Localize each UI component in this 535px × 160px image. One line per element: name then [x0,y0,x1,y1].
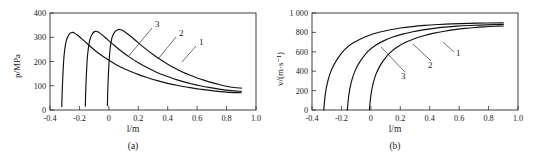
curve-tag-2: 2 [179,28,184,38]
leader-line-1 [443,42,454,52]
ytick-label: 200 [296,87,308,96]
xtick-label: 0.6 [454,114,464,123]
plot-a-xticklabels: -0.4 -0.2 0 0.2 0.4 0.6 0.8 1.0 [44,114,262,123]
plot-b-yticks [312,13,316,110]
plot-a-svg: 0 100 200 300 400 -0.4 -0.2 0 [0,0,268,160]
curve-tag-1: 1 [199,37,204,47]
plot-b-frame [312,13,518,110]
chart-panel-a: 0 100 200 300 400 -0.4 -0.2 0 [0,0,268,160]
xtick-label: 0.4 [425,114,435,123]
curve-series-1 [107,29,241,105]
xtick-label: -0.4 [44,114,57,123]
plot-b-xticklabels: -0.4 -0.2 0 0.2 0.4 0.6 0.8 1.0 [306,114,524,123]
plot-b-curve-tags: 1 2 3 [381,42,461,81]
x-axis-label-a-text: l/m [127,124,140,134]
plot-b-curves [324,23,504,110]
x-axis-label-a: l/m [103,124,163,134]
plot-b-yticklabels: 0 200 400 600 800 1 000 [290,9,308,115]
plot-a-yticklabels: 0 100 200 300 400 [34,9,46,115]
y-axis-label-b-text: v/(m·s⁻¹) [275,52,285,86]
leader-line-2 [158,37,176,59]
xtick-label: -0.2 [73,114,86,123]
ytick-label: 1 000 [290,9,308,18]
curve-series-3 [324,23,504,110]
curve-tag-1: 1 [456,48,461,58]
xtick-label: 1.0 [513,114,523,123]
curve-tag-3: 3 [155,19,160,29]
plot-a-yticks [50,13,54,110]
ytick-label: 400 [34,9,46,18]
curve-tag-3: 3 [401,71,406,81]
plot-a-frame [50,13,256,110]
x-axis-label-b-text: l/m [389,124,402,134]
plot-a-curves [62,29,242,106]
curve-tag-2: 2 [428,60,433,70]
xtick-label: 0.6 [192,114,202,123]
xtick-label: 0.2 [395,114,405,123]
ytick-label: 300 [34,33,46,42]
leader-line-2 [413,44,431,61]
leader-line-1 [182,46,196,62]
ytick-label: 100 [34,82,46,91]
y-axis-label-b: v/(m·s⁻¹) [275,24,285,86]
xtick-label: -0.4 [306,114,319,123]
plot-a-curve-tags: 1 2 3 [128,19,204,62]
xtick-label: 0 [369,114,373,123]
x-axis-label-b: l/m [365,124,425,134]
xtick-label: 0.2 [133,114,143,123]
xtick-label: 0 [107,114,111,123]
panel-caption-a: (a) [103,141,163,151]
chart-panel-b: 0 200 400 600 800 1 000 -0.4 -0.2 0 [268,0,535,160]
ytick-label: 200 [34,58,46,67]
xtick-label: 0.8 [483,114,493,123]
panel-caption-b-text: (b) [389,141,400,151]
ytick-label: 400 [296,67,308,76]
xtick-label: 1.0 [251,114,261,123]
ytick-label: 800 [296,28,308,37]
plot-b-svg: 0 200 400 600 800 1 000 -0.4 -0.2 0 [268,0,535,160]
leader-line-3 [128,28,152,57]
y-axis-label-a-text: p/MPa [12,54,22,78]
plot-a-xticks [50,106,256,110]
plot-b-xticks [312,106,518,110]
panel-caption-b: (b) [365,141,425,151]
y-axis-label-a: p/MPa [12,32,22,78]
xtick-label: -0.2 [335,114,348,123]
xtick-label: 0.8 [221,114,231,123]
figure-root: 0 100 200 300 400 -0.4 -0.2 0 [0,0,535,160]
xtick-label: 0.4 [163,114,173,123]
panel-caption-a-text: (a) [128,141,139,151]
ytick-label: 600 [296,48,308,57]
